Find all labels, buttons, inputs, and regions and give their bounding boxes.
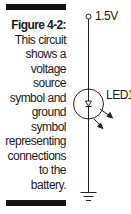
- light-emission-arrows-icon: [94, 109, 113, 129]
- terminal-circle-icon: [86, 14, 91, 19]
- led-label: LED1: [106, 89, 131, 101]
- circuit-schematic: [0, 0, 131, 214]
- ground-icon: [81, 193, 97, 201]
- led-diode-icon: [86, 101, 92, 107]
- voltage-source-label: 1.5V: [95, 10, 118, 22]
